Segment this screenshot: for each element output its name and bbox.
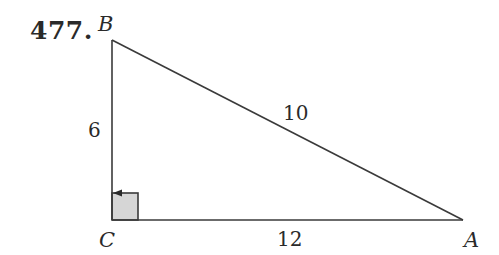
side-bc-length: 6 xyxy=(88,120,101,140)
side-ba-length: 10 xyxy=(283,103,308,123)
side-ba xyxy=(112,40,463,220)
diagram-canvas: 477. B C A 6 10 12 xyxy=(0,0,499,255)
problem-number: 477. xyxy=(30,18,93,43)
side-ca-length: 12 xyxy=(277,229,302,249)
vertex-b-label: B xyxy=(98,14,113,35)
right-angle-marker xyxy=(112,193,138,220)
vertex-a-label: A xyxy=(464,230,479,251)
vertex-c-label: C xyxy=(99,230,115,251)
